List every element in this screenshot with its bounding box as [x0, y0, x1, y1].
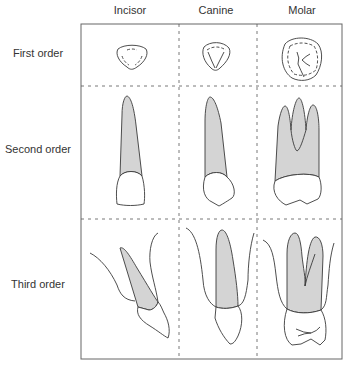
molar-second-order: [274, 98, 321, 205]
molar-first-order-occlusal: [282, 38, 321, 80]
molar-third-order: [263, 233, 334, 345]
canine-first-order-occlusal: [203, 43, 230, 71]
incisor-second-order: [116, 96, 144, 206]
incisor-third-order: [90, 233, 169, 338]
canine-second-order: [203, 97, 234, 206]
canine-third-order: [186, 228, 254, 344]
incisor-first-order-occlusal: [117, 45, 147, 69]
tooth-order-diagram: [0, 0, 351, 368]
